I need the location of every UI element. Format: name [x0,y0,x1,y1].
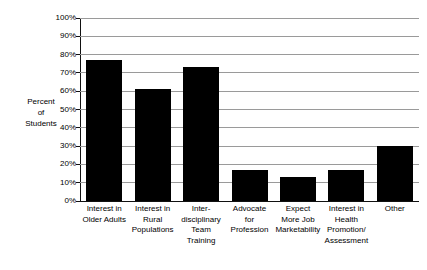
bar [328,170,364,201]
x-tick-label-line: Assessment [316,236,376,247]
y-tick-label: 60% [38,87,76,95]
y-tick-label: 30% [38,142,76,150]
bar [232,170,268,201]
y-tick-label: 80% [38,51,76,59]
y-tick-label: 90% [38,32,76,40]
y-tick-label: 10% [38,179,76,187]
x-tick-label-line: Health [316,215,376,226]
y-tick-label: 0% [38,197,76,205]
bar [86,60,122,201]
bars-layer [80,18,419,201]
plot-area [80,18,419,201]
y-tick-label: 100% [38,14,76,22]
x-tick-label: Other [365,204,425,215]
bar [135,89,171,201]
y-tick-label: 50% [38,106,76,114]
x-tick-label-line: Training [171,236,231,247]
y-axis-tick-labels: 0%10%20%30%40%50%60%70%80%90%100% [36,18,76,201]
y-tick-label: 40% [38,124,76,132]
y-tick-label: 70% [38,69,76,77]
y-tick-label: 20% [38,160,76,168]
x-tick-label-line: Promotion/ [316,225,376,236]
x-axis-tick-labels: Interest inOlder AdultsInterest inRuralP… [80,204,419,266]
bar-chart: Percent of Students 0%10%20%30%40%50%60%… [0,0,427,270]
bar [377,146,413,201]
bar [183,67,219,201]
bar [280,177,316,201]
x-tick-label-line: Other [365,204,425,215]
